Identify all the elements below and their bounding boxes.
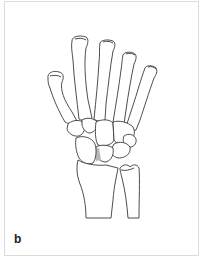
scaphoid (76, 137, 96, 164)
middle-metacarpal (94, 40, 115, 121)
panel-label: b (14, 232, 21, 246)
index-metacarpal (72, 36, 92, 120)
capitate (95, 120, 114, 146)
ulna (120, 165, 139, 218)
thumb-metacarpal (48, 71, 77, 123)
hand-skeleton-illustration (0, 0, 204, 259)
triquetrum (111, 142, 130, 158)
radius (77, 160, 118, 218)
